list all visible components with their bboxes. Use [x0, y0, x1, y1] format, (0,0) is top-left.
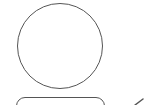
- user-body-shape: [16, 97, 105, 105]
- check-mark-icon: [132, 98, 145, 105]
- user-head-circle: [17, 3, 103, 89]
- user-avatar-icon: [0, 0, 145, 105]
